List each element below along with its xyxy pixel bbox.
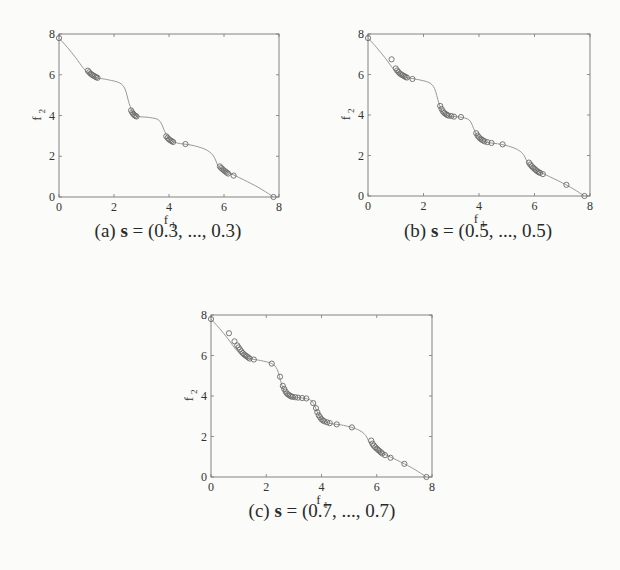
y-tick-label: 6 bbox=[201, 349, 207, 363]
solution-point bbox=[369, 438, 374, 443]
x-tick-label: 6 bbox=[374, 480, 380, 494]
caption-value: = (0.7, ..., 0.7) bbox=[282, 500, 396, 521]
y-axis-label: f2 bbox=[181, 390, 199, 402]
x-tick-label: 2 bbox=[263, 480, 269, 494]
caption-label: (c) bbox=[249, 500, 275, 521]
plot-frame bbox=[211, 315, 432, 477]
pareto-front-curve bbox=[211, 319, 426, 477]
svg-text:2: 2 bbox=[189, 390, 199, 395]
y-tick-label: 0 bbox=[201, 470, 207, 484]
solution-point bbox=[226, 331, 231, 336]
caption-c: (c) s = (0.7, ..., 0.7) bbox=[249, 500, 396, 522]
svg-text:f: f bbox=[181, 396, 196, 401]
solution-markers bbox=[208, 316, 429, 479]
y-tick-label: 4 bbox=[201, 389, 207, 403]
x-tick-label: 0 bbox=[208, 480, 214, 494]
y-tick-label: 2 bbox=[201, 430, 207, 444]
plot-c: 0246802468f1f2 bbox=[0, 0, 620, 570]
y-tick-label: 8 bbox=[201, 308, 207, 322]
x-tick-label: 8 bbox=[429, 480, 435, 494]
